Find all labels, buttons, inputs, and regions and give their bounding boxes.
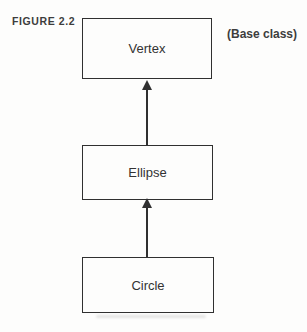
node-ellipse: Ellipse <box>82 145 213 200</box>
figure-caption: FIGURE 2.2 <box>12 15 75 27</box>
node-vertex-label: Vertex <box>129 41 166 56</box>
node-circle: Circle <box>82 257 214 313</box>
edge-circle-to-ellipse <box>146 207 148 257</box>
node-ellipse-label: Ellipse <box>128 165 166 180</box>
scan-artifact <box>96 315 206 318</box>
node-circle-label: Circle <box>131 278 164 293</box>
base-class-annotation: (Base class) <box>227 27 297 41</box>
edge-ellipse-to-vertex <box>146 89 148 145</box>
node-vertex: Vertex <box>82 18 212 79</box>
figure-page: FIGURE 2.2 (Base class) Vertex Ellipse C… <box>0 0 307 332</box>
